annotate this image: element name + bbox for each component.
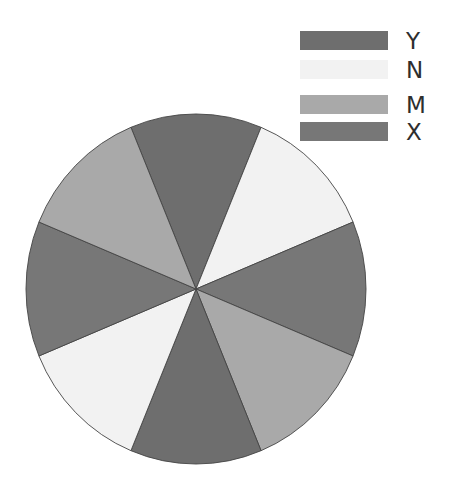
legend-label-m: M	[406, 92, 426, 118]
legend-label-n: N	[406, 57, 423, 83]
legend: Y N M X	[300, 31, 440, 103]
legend-entry-y: Y	[300, 31, 440, 49]
legend-swatch-m	[300, 95, 388, 114]
legend-entry-m: M	[300, 95, 440, 113]
legend-swatch-n	[300, 60, 388, 79]
legend-label-y: Y	[406, 28, 420, 54]
legend-entry-x: X	[300, 122, 440, 140]
legend-label-x: X	[406, 119, 422, 145]
legend-entry-n: N	[300, 60, 440, 78]
legend-swatch-y	[300, 31, 388, 50]
pie-slices	[26, 114, 366, 464]
legend-swatch-x	[300, 122, 388, 141]
